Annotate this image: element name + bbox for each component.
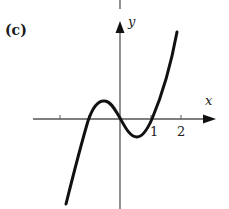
x-axis-arrow-icon [203, 115, 216, 124]
panel-label: (c) [5, 22, 27, 38]
x-axis-label: x [205, 93, 212, 108]
x-tick-label-2: 2 [177, 124, 185, 139]
y-axis-label: y [128, 14, 135, 29]
cubic-curve [66, 32, 177, 204]
cubic-function-graph [0, 0, 229, 209]
y-axis-arrow-icon [116, 21, 125, 33]
x-tick-label-1: 1 [150, 124, 158, 139]
